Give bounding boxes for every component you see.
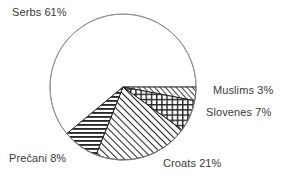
- pie-label-serbs: Serbs 61%: [12, 6, 67, 19]
- pie-label-slovenes: Slovenes 7%: [206, 106, 271, 119]
- pie-label-croats: Croats 21%: [163, 157, 221, 170]
- pie-label-muslims: Muslims 3%: [213, 84, 273, 97]
- pie-chart-figure: Serbs 61% Muslims 3% Slovenes 7% Prečani…: [0, 0, 294, 181]
- pie-label-precani: Prečani 8%: [9, 152, 66, 165]
